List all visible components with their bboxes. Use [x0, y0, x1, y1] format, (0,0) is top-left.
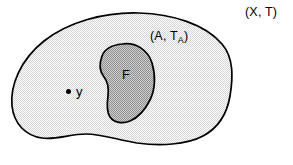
- topology-subspace-diagram: y F (A, TA) (X, T): [0, 0, 293, 165]
- subspace-label-close: ): [184, 29, 188, 43]
- diagram-canvas: [0, 0, 293, 165]
- closed-set-label-F: F: [122, 68, 130, 81]
- point-y-marker-dot: [66, 89, 71, 94]
- subspace-label-main: (A, T: [150, 29, 178, 43]
- ambient-space-label: (X, T): [245, 6, 277, 19]
- point-y-label: y: [76, 85, 83, 98]
- subspace-label: (A, TA): [150, 30, 188, 45]
